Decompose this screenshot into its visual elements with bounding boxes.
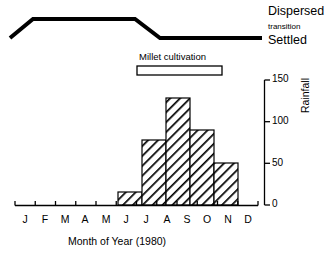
x-tick-label-feb: F	[38, 214, 52, 225]
settlement-pattern-line	[10, 19, 262, 38]
x-tick-label-apr: A	[78, 214, 92, 225]
x-tick-label-oct: O	[200, 214, 214, 225]
millet-cultivation-bar	[137, 66, 222, 75]
rainfall-bars	[118, 98, 238, 205]
bar-J-jun	[118, 192, 142, 205]
x-tick-label-may: M	[99, 214, 113, 225]
y-tick-label-50: 50	[272, 158, 283, 168]
bar-A-aug	[166, 98, 190, 205]
x-axis-title: Month of Year (1980)	[68, 236, 166, 247]
bar-O-oct	[214, 163, 238, 205]
y-tick-label-0: 0	[272, 199, 278, 209]
y-axis-ticks	[265, 80, 271, 205]
x-tick-label-nov: N	[221, 214, 235, 225]
settlement-label-settled: Settled	[268, 34, 307, 47]
x-tick-label-jun: J	[119, 214, 133, 225]
y-tick-label-100: 100	[272, 116, 289, 126]
x-tick-label-sep: S	[180, 214, 194, 225]
rainfall-settlement-figure: Dispersed transition Settled Millet cult…	[0, 0, 333, 260]
millet-cultivation-label: Millet cultivation	[139, 52, 206, 62]
x-tick-label-jul: J	[139, 214, 153, 225]
x-tick-label-dec: D	[241, 214, 255, 225]
x-tick-label-aug: A	[160, 214, 174, 225]
bar-J-jul	[142, 140, 166, 205]
x-tick-label-mar: M	[58, 214, 72, 225]
settlement-label-dispersed: Dispersed	[268, 5, 324, 18]
y-axis-title: Rainfall	[300, 78, 311, 113]
bar-S-sep	[190, 130, 214, 205]
settlement-label-transition: transition	[268, 23, 300, 31]
x-tick-label-jan: J	[18, 214, 32, 225]
y-tick-label-150: 150	[272, 74, 289, 84]
